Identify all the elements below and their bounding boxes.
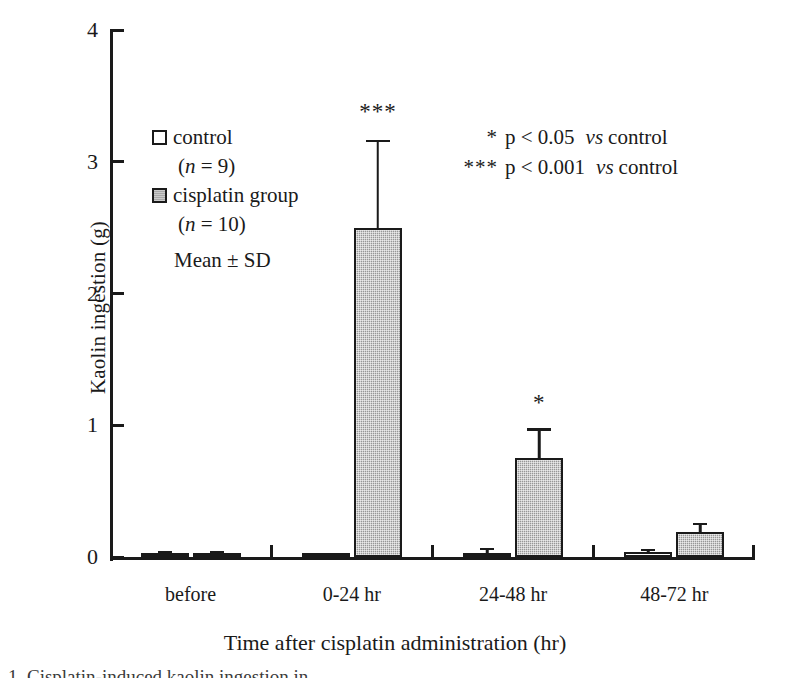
legend-label-cisplatin: cisplatin group (173, 181, 298, 210)
error-bar-cisplatin-1 (377, 142, 380, 228)
bar-cisplatin-2 (515, 458, 563, 557)
y-tick-label-0: 0 (58, 545, 98, 569)
p-value-text-0: p < 0.05 (505, 122, 575, 152)
error-bar-cisplatin-3 (699, 525, 702, 532)
x-tick-label-0: before (165, 583, 216, 606)
significance-mark-0-24-hr: *** (359, 102, 397, 122)
legend-n-cisplatin: (n = 10) (152, 210, 298, 239)
figure-kaolin-ingestion: Kaolin ingestion (g) 01234 before0-24 hr… (0, 0, 790, 678)
y-tick-4 (110, 29, 124, 32)
bar-cisplatin-1 (354, 228, 402, 557)
y-tick-label-4: 4 (58, 18, 98, 42)
legend-n-control-value: = 9) (196, 154, 236, 178)
x-tick-label-3: 48-72 hr (640, 583, 708, 606)
error-bar-cap-control-3 (641, 549, 655, 552)
legend-n-cisplatin-symbol: n (185, 212, 196, 236)
p-value-notes: *p < 0.05vscontrol***p < 0.001vscontrol (452, 122, 678, 182)
error-bar-control-2 (486, 550, 489, 553)
x-axis-line (110, 557, 755, 560)
legend-mean-sd-note: Mean ± SD (152, 246, 298, 275)
y-tick-label-1: 1 (58, 413, 98, 437)
x-tick-3 (592, 545, 595, 557)
x-axis-title: Time after cisplatin administration (hr) (0, 630, 790, 656)
bar-cisplatin-3 (676, 532, 724, 557)
error-bar-cap-control-0 (158, 551, 172, 554)
p-value-vs-0: vs (586, 122, 604, 152)
legend-entry-control: control (152, 123, 298, 152)
significance-mark-24-48-hr: * (533, 393, 546, 413)
p-value-vs-1: vs (596, 152, 614, 182)
bar-control-3 (624, 552, 672, 557)
legend-n-cisplatin-value: = 10) (196, 212, 246, 236)
y-tick-label-2: 2 (58, 282, 98, 306)
x-tick-2 (431, 545, 434, 557)
bar-control-2 (463, 553, 511, 557)
p-value-note-1: ***p < 0.001vscontrol (452, 152, 678, 182)
legend: control (n = 9) cisplatin group (n = 10)… (152, 123, 298, 275)
error-bar-cap-cisplatin-2 (527, 428, 551, 431)
plot-area: 01234 before0-24 hr24-48 hr48-72 hr **** (110, 30, 755, 560)
y-tick-1 (113, 424, 124, 427)
p-value-stars-0: * (452, 122, 498, 152)
bar-control-1 (302, 553, 350, 557)
legend-swatch-cisplatin-icon (152, 188, 167, 203)
error-bar-cap-cisplatin-3 (693, 523, 707, 526)
y-axis-line (110, 30, 113, 561)
x-tick-label-2: 24-48 hr (479, 583, 547, 606)
legend-n-control-symbol: n (185, 154, 196, 178)
p-value-reference-1: control (619, 152, 678, 182)
error-bar-cisplatin-2 (538, 431, 541, 459)
y-tick-0 (113, 556, 124, 559)
error-bar-cap-control-2 (480, 548, 494, 551)
figure-caption: 1. Cisplatin-induced kaolin ingestion in (8, 666, 308, 678)
error-bar-cap-cisplatin-0 (210, 551, 224, 554)
y-tick-2 (113, 292, 124, 295)
x-tick-1 (270, 545, 273, 557)
p-value-note-0: *p < 0.05vscontrol (452, 122, 678, 152)
p-value-text-1: p < 0.001 (505, 152, 585, 182)
legend-entry-cisplatin: cisplatin group (152, 181, 298, 210)
x-tick-4 (752, 545, 755, 557)
y-tick-label-3: 3 (58, 150, 98, 174)
legend-swatch-control-icon (152, 130, 167, 145)
x-tick-label-1: 0-24 hr (323, 583, 381, 606)
p-value-reference-0: control (608, 122, 667, 152)
legend-label-control: control (173, 123, 232, 152)
y-tick-3 (113, 160, 124, 163)
legend-n-control: (n = 9) (152, 152, 298, 181)
p-value-stars-1: *** (452, 152, 498, 182)
error-bar-cap-cisplatin-1 (366, 140, 390, 143)
